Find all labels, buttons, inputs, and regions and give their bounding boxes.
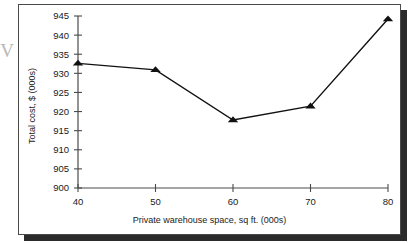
x-axis-tick-label: 70 <box>305 196 316 207</box>
x-axis-title: Private warehouse space, sq ft. (000s) <box>19 215 400 225</box>
figure-frame: 9009059109159209259309359409454050607080… <box>18 4 401 235</box>
data-point-marker[interactable] <box>305 103 315 109</box>
data-point-marker[interactable] <box>73 60 83 66</box>
data-point-marker[interactable] <box>383 15 393 21</box>
y-axis-tick-label: 945 <box>53 10 69 21</box>
y-axis-tick-label: 920 <box>53 106 69 117</box>
data-line-total-cost <box>78 19 388 120</box>
y-axis-title: Total cost, $ (000s) <box>27 41 37 171</box>
line-chart-svg: 9009059109159209259309359409454050607080 <box>19 5 400 234</box>
y-axis-tick-label: 925 <box>53 87 69 98</box>
y-axis-tick-label: 930 <box>53 68 69 79</box>
y-axis-tick-label: 940 <box>53 30 69 41</box>
x-axis-tick-label: 80 <box>383 196 394 207</box>
y-axis-tick-label: 915 <box>53 125 69 136</box>
y-axis-tick-label: 910 <box>53 144 69 155</box>
page-edge-artifact: V <box>0 38 14 64</box>
chart-plot-area: 9009059109159209259309359409454050607080… <box>19 5 400 234</box>
y-axis-tick-label: 900 <box>53 182 69 193</box>
x-axis-tick-label: 40 <box>73 196 84 207</box>
x-axis-tick-label: 50 <box>150 196 161 207</box>
y-axis-tick-label: 935 <box>53 49 69 60</box>
x-axis-tick-label: 60 <box>228 196 239 207</box>
y-axis-tick-label: 905 <box>53 163 69 174</box>
